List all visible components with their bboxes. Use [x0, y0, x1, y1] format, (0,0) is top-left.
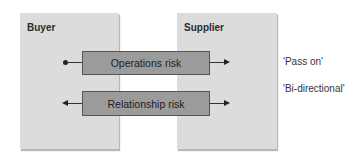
- buyer-label: Buyer: [27, 22, 55, 33]
- ops-right-line: [210, 62, 224, 63]
- bi-directional-annotation: 'Bi-directional': [283, 83, 345, 94]
- rel-arrow-right-icon: [224, 100, 230, 106]
- supplier-box: Supplier: [177, 13, 277, 149]
- ops-left-line: [66, 62, 82, 63]
- operations-risk-box: Operations risk: [82, 51, 210, 75]
- buyer-box: Buyer: [20, 13, 119, 149]
- supplier-label: Supplier: [184, 22, 224, 33]
- ops-arrow-right-icon: [224, 59, 230, 65]
- operations-risk-label: Operations risk: [111, 57, 182, 69]
- relationship-risk-label: Relationship risk: [107, 98, 184, 110]
- relationship-risk-box: Relationship risk: [82, 91, 210, 116]
- pass-on-annotation: 'Pass on': [283, 56, 323, 67]
- rel-left-line: [68, 103, 82, 104]
- rel-right-line: [210, 103, 224, 104]
